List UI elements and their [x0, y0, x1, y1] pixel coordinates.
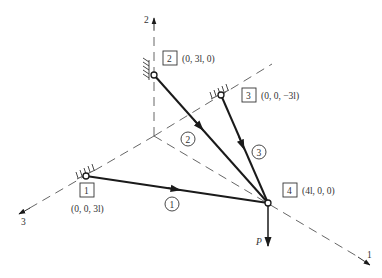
load-p: P [255, 206, 268, 247]
space-truss-diagram: 2 3 1 [0, 0, 382, 278]
svg-text:3: 3 [257, 148, 262, 158]
coordinate-axes: 2 3 1 [19, 15, 372, 265]
member-3-label: 3 [252, 145, 266, 159]
axis-1-label: 1 [367, 250, 372, 260]
joint-4 [265, 200, 271, 206]
axis-3-arrow [19, 208, 30, 214]
svg-text:2: 2 [186, 135, 191, 145]
node-3-label: 3 (0, 0, −3l) [242, 88, 299, 102]
axis-2-label: 2 [144, 15, 149, 25]
member-2-arrow [194, 120, 203, 130]
svg-text:1: 1 [170, 200, 175, 210]
svg-text:1: 1 [84, 186, 89, 196]
members [86, 75, 268, 203]
svg-text:4: 4 [287, 186, 292, 196]
node-4-label: 4 (4l, 0, 0) [283, 183, 335, 197]
svg-text:2: 2 [167, 54, 172, 64]
axis-3-label: 3 [21, 217, 26, 227]
node-1-coords: (0, 0, 3l) [71, 204, 104, 215]
joint-2 [151, 72, 157, 78]
svg-text:3: 3 [246, 91, 251, 101]
node-2-label: 2 (0, 3l, 0) [163, 51, 215, 65]
node-3-coords: (0, 0, −3l) [261, 91, 299, 102]
joint-3 [218, 92, 224, 98]
node-4-coords: (4l, 0, 0) [302, 186, 335, 197]
member-1-arrow [168, 188, 180, 190]
load-label: P [255, 237, 262, 247]
node-1-label: 1 (0, 0, 3l) [71, 183, 104, 215]
member-2-label: 2 [181, 132, 195, 146]
support-node-2 [143, 58, 149, 80]
joint-1 [83, 173, 89, 179]
member-1-label: 1 [165, 197, 179, 211]
node-2-coords: (0, 3l, 0) [182, 54, 215, 65]
member-3-arrow [239, 137, 244, 149]
